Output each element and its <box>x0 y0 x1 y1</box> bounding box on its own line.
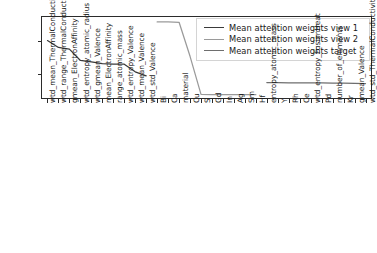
x-tick-label: Cu <box>193 93 200 103</box>
x-tick-label: wtd_std_Valence <box>149 42 156 103</box>
x-tick-label: Ce <box>303 93 310 103</box>
x-tick-mark <box>91 99 92 103</box>
x-tick-mark <box>80 99 81 103</box>
x-tick-label: Ag <box>237 93 244 103</box>
x-tick-label: wtd_entropy_atomic_radius <box>83 3 90 103</box>
x-tick-label: gmean_Valence <box>358 45 365 103</box>
x-tick-label: mean_ElectronAffinity <box>105 23 112 103</box>
x-tick-label: Sm <box>248 91 255 103</box>
legend-color-swatch <box>204 39 224 40</box>
x-tick-label: number_of_elements <box>336 26 343 103</box>
x-tick-label: Hf <box>259 95 266 103</box>
x-tick-label: wtd_entropy_FusionHeat <box>314 13 321 103</box>
x-tick-mark <box>124 99 125 103</box>
x-tick-label: Ca <box>171 93 178 103</box>
x-tick-mark <box>102 99 103 103</box>
x-tick-mark <box>179 99 180 103</box>
x-tick-mark <box>157 99 158 103</box>
x-tick-label: Pd <box>325 94 332 103</box>
x-tick-mark <box>201 99 202 103</box>
x-tick-label: In <box>226 96 233 103</box>
x-tick-label: Bi <box>160 96 167 103</box>
x-tick-mark <box>113 99 114 103</box>
legend-color-swatch <box>204 27 224 28</box>
x-tick-label: Rh <box>292 93 299 103</box>
x-tick-mark <box>245 99 246 103</box>
x-tick-label: wtd_std_ThermalConductivity <box>369 0 376 103</box>
x-tick-label: gmean_ElectronAffinity <box>71 18 78 103</box>
y-tick-mark <box>38 74 42 75</box>
x-tick-label: Y <box>281 99 288 103</box>
x-tick-mark <box>135 99 136 103</box>
y-tick-mark <box>38 41 42 42</box>
x-tick-label: Kr <box>347 95 354 103</box>
x-tick-mark <box>212 99 213 103</box>
x-tick-label: wtd_entropy_Valence <box>127 25 134 103</box>
x-tick-label: S <box>204 98 211 103</box>
x-tick-label: wtd_range_ThermalConductivity <box>60 0 67 103</box>
x-tick-label: wtd_gmean_Valence <box>94 28 101 103</box>
figure-canvas: Mean attention weights view 1Mean attent… <box>0 0 377 253</box>
x-tick-label: entropy_atomic_mass <box>270 23 277 103</box>
x-tick-mark <box>190 99 191 103</box>
x-tick-label: wtd_mean_ThermalConductivity <box>49 0 56 103</box>
x-tick-mark <box>223 99 224 103</box>
x-tick-mark <box>168 99 169 103</box>
x-tick-label: Gd <box>215 93 222 103</box>
legend-color-swatch <box>204 50 224 51</box>
x-tick-label: range_atomic_mass <box>116 30 123 103</box>
x-tick-label: material <box>182 73 189 103</box>
x-tick-mark <box>256 99 257 103</box>
x-tick-label: wtd_mean_Valence <box>138 33 145 103</box>
x-tick-mark <box>234 99 235 103</box>
x-tick-mark <box>146 99 147 103</box>
